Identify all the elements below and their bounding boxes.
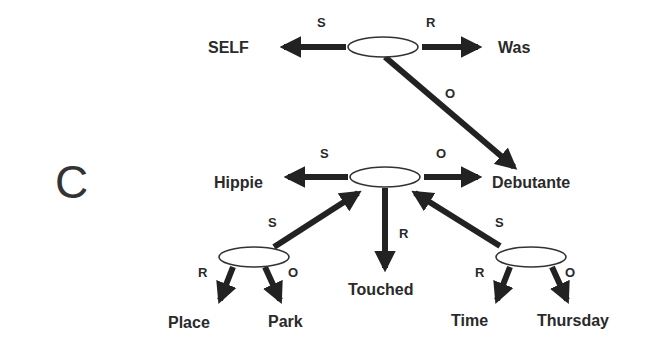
arrow-icon [265,267,280,300]
edge-label-right-o: O [565,265,575,280]
edge-top-to-debutante [385,57,514,167]
edge-label-left-s: S [268,215,277,230]
edge-label-top-r: R [426,15,436,30]
arrow-icon [415,193,500,246]
edge-label-right-r: R [475,265,485,280]
proposition-node-left [219,247,289,267]
arrow-icon [497,267,510,300]
node-touched: Touched [348,281,413,298]
node-thursday: Thursday [537,312,609,329]
edge-label-top-o: O [445,86,455,101]
node-hippie: Hippie [214,174,263,191]
edge-label-mid-s: S [320,146,329,161]
edge-label-mid-o: O [436,146,446,161]
proposition-node-right [496,247,566,267]
edge-label-left-o: O [288,265,298,280]
node-place: Place [168,314,210,331]
node-self: SELF [208,39,249,56]
semantic-network-diagram: C SELF Was S R O Hippie Debutante Touche… [0,0,659,353]
edge-label-mid-r: R [399,226,409,241]
arrow-icon [274,193,358,247]
arrow-icon [385,57,514,167]
edge-right-to-mid [415,193,500,246]
edge-label-left-r: R [198,265,208,280]
edge-right-to-time [497,267,510,300]
node-was: Was [498,39,530,56]
edge-label-right-s: S [495,215,504,230]
edge-left-to-mid [274,193,358,247]
node-park: Park [268,313,303,330]
node-debutante: Debutante [492,174,570,191]
arrow-icon [220,267,233,300]
edge-left-to-place [220,267,233,300]
node-time: Time [451,312,488,329]
proposition-node-middle [350,167,420,187]
edge-label-top-s: S [317,15,326,30]
proposition-node-top [348,37,418,57]
panel-letter: C [55,156,88,208]
edge-left-to-park [265,267,280,300]
